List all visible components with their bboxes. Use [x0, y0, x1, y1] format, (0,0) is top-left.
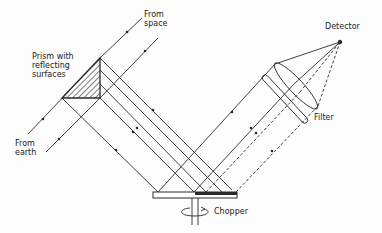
- from-space-label: From space: [144, 10, 167, 28]
- lens: [270, 59, 323, 114]
- prism-line2: reflecting: [32, 61, 74, 70]
- filter-label: Filter: [314, 113, 334, 122]
- detector-label: Detector: [325, 22, 360, 31]
- prism-label: Prism with reflecting surfaces: [32, 52, 74, 79]
- from-space-line2: space: [144, 19, 167, 28]
- filter: [261, 74, 309, 125]
- optical-diagram: From space Prism with reflecting surface…: [0, 0, 382, 233]
- chopper-label: Chopper: [214, 207, 248, 216]
- prism-line3: surfaces: [32, 70, 74, 79]
- from-earth-line2: earth: [15, 148, 36, 157]
- from-earth-label: From earth: [15, 139, 36, 157]
- from-earth-line1: From: [15, 139, 36, 148]
- detector: [338, 40, 342, 44]
- from-space-line1: From: [144, 10, 167, 19]
- prism-line1: Prism with: [32, 52, 74, 61]
